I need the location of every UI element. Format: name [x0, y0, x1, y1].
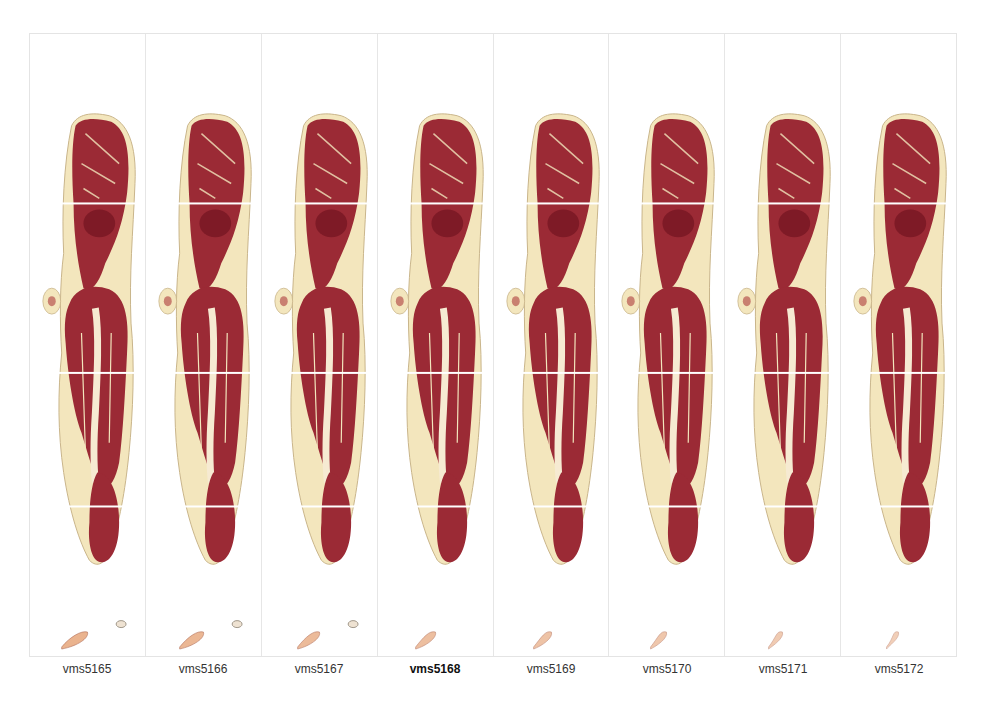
section-panel-5 [609, 34, 725, 656]
section-panel-2 [262, 34, 378, 656]
section-panel-4 [494, 34, 610, 656]
section-image-strip [29, 33, 957, 657]
section-illustration [262, 34, 377, 656]
section-labels: vms5165 vms5166 vms5167 vms5168 vms5169 … [29, 662, 957, 676]
section-label: vms5171 [725, 662, 841, 676]
section-label: vms5165 [29, 662, 145, 676]
section-panel-6 [725, 34, 841, 656]
section-illustration [494, 34, 609, 656]
section-label: vms5170 [609, 662, 725, 676]
section-label: vms5172 [841, 662, 957, 676]
section-illustration [841, 34, 956, 656]
section-panel-7 [841, 34, 956, 656]
section-illustration [609, 34, 724, 656]
section-panel-3 [378, 34, 494, 656]
section-illustration [725, 34, 840, 656]
section-label: vms5168 [377, 662, 493, 676]
section-illustration [378, 34, 493, 656]
section-label: vms5167 [261, 662, 377, 676]
section-label: vms5169 [493, 662, 609, 676]
section-panel-1 [146, 34, 262, 656]
section-illustration [146, 34, 261, 656]
section-label: vms5166 [145, 662, 261, 676]
section-illustration [30, 34, 145, 656]
section-panel-0 [30, 34, 146, 656]
